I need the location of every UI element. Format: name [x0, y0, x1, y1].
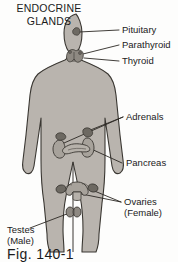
label-testes-sub: (Male)	[7, 235, 34, 246]
figure-title-line2: GLANDS	[6, 15, 92, 28]
label-ovaries-sub: (Female)	[124, 207, 162, 218]
label-ovaries: Ovaries	[124, 196, 157, 207]
adrenal-gland-left	[56, 133, 66, 141]
adrenal-gland-right	[83, 128, 93, 137]
figure-title-line1: ENDOCRINE	[6, 2, 92, 15]
label-thyroid: Thyroid	[122, 55, 154, 66]
leader-thyroid	[84, 58, 119, 61]
label-pituitary: Pituitary	[122, 24, 156, 35]
parathyroid-gland	[69, 51, 72, 54]
cervix	[73, 192, 81, 201]
leader-parathyroid	[83, 45, 119, 54]
label-parathyroid: Parathyroid	[122, 39, 171, 50]
figure-title: ENDOCRINE GLANDS	[6, 2, 92, 27]
figure-caption: Fig. 140-1	[7, 246, 74, 262]
endocrine-glands-figure: ENDOCRINE GLANDS Pituitary Parathyroid T…	[0, 0, 178, 262]
label-adrenals: Adrenals	[126, 111, 164, 122]
thyroid-gland	[67, 50, 84, 63]
label-pancreas: Pancreas	[126, 157, 166, 168]
leader-pituitary	[79, 30, 119, 32]
label-testes: Testes	[7, 224, 34, 235]
parathyroid-gland-2	[79, 52, 82, 55]
